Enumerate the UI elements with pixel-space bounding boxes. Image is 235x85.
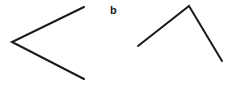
left-angle (12, 7, 84, 79)
figure-label: b (110, 5, 117, 16)
right-angle (138, 6, 222, 61)
diagram-canvas: b (0, 0, 235, 85)
angles-figure (0, 0, 235, 85)
